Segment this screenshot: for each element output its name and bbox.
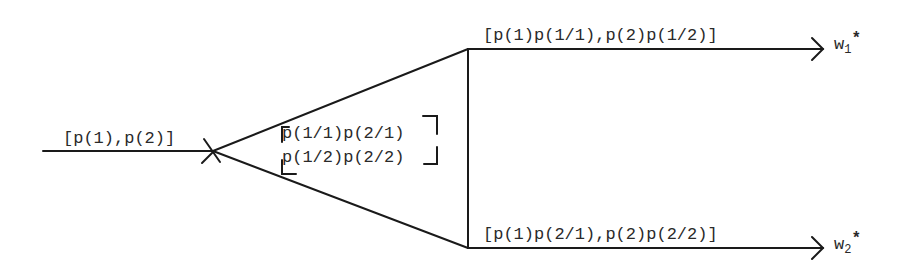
matrix-right-bracket-bottom bbox=[424, 147, 437, 164]
lower-output-label: [p(1)p(2/1),p(2)p(2/2)] bbox=[483, 226, 718, 243]
input-distribution-label: [p(1),p(2)] bbox=[63, 130, 175, 147]
matrix-right-bracket-top bbox=[423, 116, 437, 134]
channel-matrix-row-2: p(1/2)p(2/2) bbox=[282, 149, 404, 166]
w2-base: w bbox=[834, 235, 844, 254]
output-target-w2: w2* bbox=[834, 236, 861, 253]
output-target-w1: w1* bbox=[834, 36, 861, 53]
channel-matrix-row-1: p(1/1)p(2/1) bbox=[282, 125, 404, 142]
upper-output-label: [p(1)p(1/1),p(2)p(1/2)] bbox=[483, 27, 718, 44]
w1-base: w bbox=[834, 35, 844, 54]
w2-asterisk: * bbox=[851, 230, 861, 248]
w1-asterisk: * bbox=[851, 30, 861, 48]
apex-cross-mark-2 bbox=[202, 151, 214, 163]
diagram-canvas: [p(1),p(2)] p(1/1)p(2/1) p(1/2)p(2/2) [p… bbox=[0, 0, 916, 279]
